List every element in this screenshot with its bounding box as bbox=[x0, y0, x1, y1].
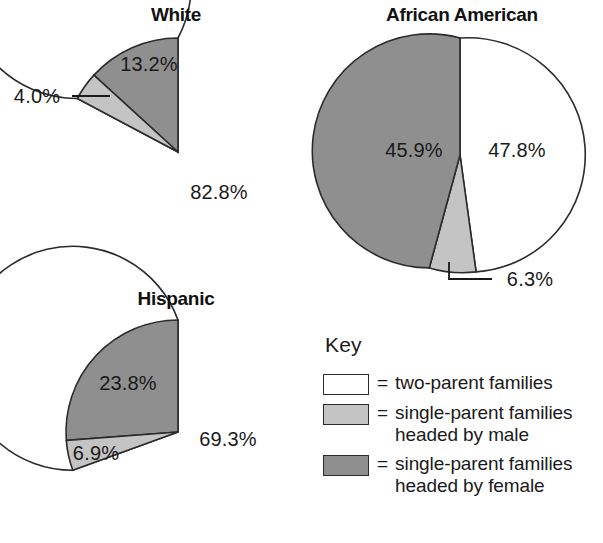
legend-equals-sign-1: = bbox=[377, 372, 388, 394]
label-white-two-parent: 82.8% bbox=[190, 181, 248, 204]
legend-swatch-single-male bbox=[323, 404, 369, 425]
label-aa-two-parent: 47.8% bbox=[488, 139, 546, 162]
label-hispanic-male: 6.9% bbox=[73, 442, 119, 465]
pie-hispanic bbox=[0, 246, 178, 470]
pie-title-hispanic: Hispanic bbox=[138, 288, 215, 310]
legend-item-single-female: = single-parent families headed by femal… bbox=[323, 453, 603, 497]
legend-equals-sign-2: = bbox=[377, 402, 388, 424]
legend-label-single-male-line2: headed by male bbox=[395, 424, 572, 446]
label-hispanic-female: 23.8% bbox=[99, 372, 157, 395]
pie-chart-figure: White African American Hispanic 82.8% 13… bbox=[0, 0, 603, 543]
legend-label-two-parent-line1: two-parent families bbox=[395, 372, 553, 393]
legend-equals-sign-3: = bbox=[377, 453, 388, 475]
legend-swatch-single-female bbox=[323, 455, 369, 476]
label-aa-male: 6.3% bbox=[507, 268, 553, 291]
pie-title-white: White bbox=[151, 4, 201, 26]
pie-title-african-american: African American bbox=[386, 4, 538, 26]
legend-swatch-two-parent bbox=[323, 374, 369, 395]
label-aa-female: 45.9% bbox=[385, 139, 443, 162]
legend-label-single-female-line1: single-parent families bbox=[395, 453, 572, 474]
label-hispanic-two-parent: 69.3% bbox=[199, 428, 257, 451]
legend: = two-parent families = single-parent fa… bbox=[323, 372, 603, 504]
legend-item-single-male: = single-parent families headed by male bbox=[323, 402, 603, 446]
legend-label-single-male: single-parent families headed by male bbox=[395, 402, 572, 446]
legend-label-single-male-line1: single-parent families bbox=[395, 402, 572, 423]
legend-heading: Key bbox=[325, 333, 362, 357]
label-white-female: 13.2% bbox=[120, 53, 178, 76]
label-white-male: 4.0% bbox=[14, 85, 60, 108]
legend-label-single-female-line2: headed by female bbox=[395, 475, 572, 497]
legend-item-two-parent: = two-parent families bbox=[323, 372, 603, 395]
legend-label-two-parent: two-parent families bbox=[395, 372, 553, 394]
legend-label-single-female: single-parent families headed by female bbox=[395, 453, 572, 497]
